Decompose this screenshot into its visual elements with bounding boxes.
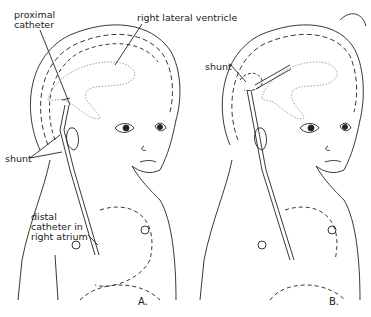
- panel-a-label: A.: [138, 297, 148, 307]
- shunt-diagram: proximal catheter right lateral ventricl…: [0, 0, 371, 317]
- panel-a-drawing: [18, 24, 180, 300]
- shunt-label-a: shunt: [5, 154, 32, 164]
- shunt-label-b: shunt: [205, 62, 232, 72]
- proximal-catheter-label: proximal catheter: [14, 10, 55, 30]
- panel-b-drawing: [200, 14, 366, 300]
- panel-b-label: B.: [329, 297, 339, 307]
- diagram-drawing: [0, 0, 371, 317]
- right-lateral-ventricle-label: right lateral ventricle: [137, 13, 237, 23]
- distal-catheter-label: distal catheter in right atrium: [31, 212, 88, 242]
